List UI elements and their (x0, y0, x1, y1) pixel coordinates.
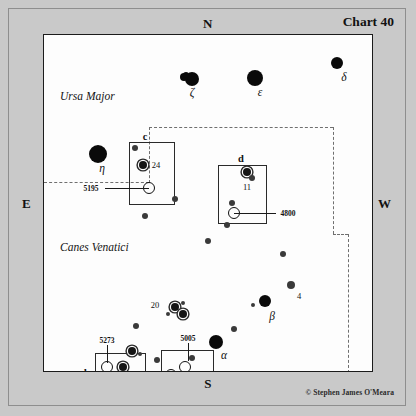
star-label: 4 (297, 291, 301, 301)
star-marker (229, 200, 235, 206)
star-marker (205, 238, 211, 244)
star-marker (132, 145, 138, 151)
star-marker (280, 251, 286, 257)
ngc-callout-5195: 5195 (84, 184, 99, 193)
callout-leader-line (107, 345, 108, 363)
star-marker (128, 347, 136, 355)
star-marker (139, 161, 147, 169)
star-marker (209, 335, 223, 349)
star-label: δ (341, 71, 346, 83)
star-marker (133, 323, 139, 329)
star-marker (154, 357, 160, 363)
constellation-name: Ursa Major (60, 90, 115, 102)
star-marker (166, 312, 170, 316)
star-marker (172, 196, 178, 202)
inset-box-label-a: a (218, 370, 223, 373)
callout-leader-line (188, 343, 189, 361)
deep-sky-object-5005 (179, 361, 191, 372)
constellation-name: Canes Venatici (60, 241, 129, 253)
star-marker (287, 281, 295, 289)
star-marker (142, 213, 148, 219)
star-marker (89, 145, 107, 163)
ngc-callout-5005: 5005 (181, 334, 196, 343)
callout-leader-line (234, 213, 276, 214)
star-marker (331, 57, 343, 69)
chart-title: Chart 40 (343, 14, 394, 30)
star-marker (119, 363, 127, 371)
constellation-boundary-segment (149, 127, 333, 128)
star-marker (171, 303, 179, 311)
star-marker (138, 352, 142, 356)
star-label: 11 (243, 182, 251, 192)
copyright-credit: © Stephen James O'Meara (305, 388, 394, 397)
chart-frame: cdbaζεδηβα241142025145195480052735005503… (43, 34, 373, 372)
constellation-boundary-segment (348, 234, 349, 372)
ngc-callout-5033: 5033 (133, 371, 148, 373)
constellation-boundary-segment (333, 127, 334, 234)
star-marker (231, 326, 237, 332)
star-label: α (221, 349, 227, 361)
star-label: η (99, 162, 105, 174)
compass-label-west: W (378, 196, 392, 212)
star-label: ζ (190, 86, 195, 98)
inset-box-c (129, 142, 175, 205)
callout-leader-line (105, 188, 149, 189)
constellation-boundary-segment (333, 234, 348, 235)
star-marker (249, 175, 255, 181)
star-label: β (269, 310, 275, 322)
star-marker (251, 303, 255, 307)
star-label: ε (258, 86, 263, 98)
chart-plot-area: cdbaζεδηβα241142025145195480052735005503… (44, 35, 372, 371)
ngc-callout-4800: 4800 (281, 209, 296, 218)
ngc-callout-5273: 5273 (100, 336, 115, 345)
star-label: 24 (152, 160, 161, 170)
inset-box-label-c: c (143, 131, 148, 142)
star-marker (224, 222, 230, 228)
star-chart-page: N S E W Chart 40 © Stephen James O'Meara… (0, 0, 416, 416)
star-marker (183, 72, 189, 78)
star-label: 20 (151, 300, 160, 310)
compass-label-east: E (22, 196, 31, 212)
star-marker (179, 310, 187, 318)
star-marker (189, 355, 195, 361)
inset-box-label-b: b (84, 367, 90, 373)
star-marker (259, 295, 271, 307)
star-marker (247, 70, 263, 86)
inset-box-label-d: d (238, 153, 244, 164)
star-marker (181, 301, 185, 305)
